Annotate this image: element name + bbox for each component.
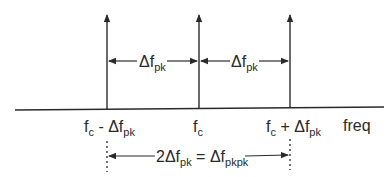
carrier-frequency-label: fc: [193, 118, 203, 138]
pkpk-arrow-right: [245, 155, 288, 156]
delta-left-label: Δfpk: [139, 53, 166, 73]
upper-frequency-label: fc + Δfpk: [266, 118, 321, 138]
fm-spectrum-diagram: Δfpk Δfpk fc - Δfpk fc fc + Δfpk freq 2Δ…: [0, 0, 392, 177]
frequency-axis-label: freq: [343, 117, 371, 134]
delta-right-label: Δfpk: [231, 53, 258, 73]
lower-frequency-label: fc - Δfpk: [84, 118, 135, 138]
pkpk-label: 2Δfpk = Δfpkpk: [156, 148, 249, 168]
